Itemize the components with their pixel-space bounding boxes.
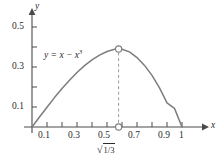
- plot-canvas: [0, 0, 222, 166]
- y-tick-label-0.5: 0.5: [12, 22, 24, 32]
- root-radicand: 1/3: [103, 143, 116, 155]
- root-denominator: 3: [110, 146, 114, 155]
- y-tick-label-0.3: 0.3: [12, 62, 24, 72]
- equation-equals: =: [51, 50, 57, 60]
- root-label: √1/3: [97, 145, 115, 155]
- radical-icon: √: [97, 144, 103, 155]
- x-tick-label-0.5: 0.5: [98, 131, 110, 141]
- equation-rhs-base: x − x: [59, 50, 79, 60]
- x-axis-label: x: [211, 121, 215, 131]
- x-tick-label-0.9: 0.9: [158, 131, 170, 141]
- x-axis-ticks: [47, 122, 182, 127]
- x-tick-label-0.3: 0.3: [68, 131, 80, 141]
- y-axis-ticks: [32, 27, 37, 107]
- x-tick-label-1: 1: [179, 131, 184, 141]
- equation-lhs: y: [44, 50, 48, 60]
- y-tick-label-0.1: 0.1: [12, 102, 24, 112]
- maximum-point-marker: [116, 46, 122, 52]
- equation-label: y = x − x3: [44, 49, 82, 61]
- x-axis-root-marker: [116, 124, 122, 130]
- x-axis-arrow: [202, 124, 209, 131]
- x-tick-label-0.1: 0.1: [38, 131, 50, 141]
- chart-figure: 0.5 0.3 0.1 0.1 0.3 0.5 0.7 0.9 1 x y y …: [0, 0, 222, 166]
- curve-y-equals-x-minus-x-cubed: [32, 49, 182, 127]
- y-axis-label: y: [35, 2, 39, 12]
- x-tick-label-0.7: 0.7: [128, 131, 140, 141]
- equation-rhs-exponent: 3: [79, 48, 82, 55]
